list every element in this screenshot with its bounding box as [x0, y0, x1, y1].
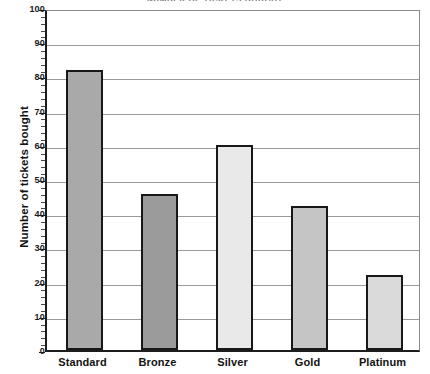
bar-gold — [291, 206, 328, 350]
y-axis-tick-label: 90 — [9, 38, 45, 48]
gridline — [47, 45, 419, 46]
plot-area — [45, 10, 420, 352]
bar-platinum — [366, 275, 403, 350]
bar-standard — [66, 70, 103, 350]
y-axis-tick-label: 10 — [9, 312, 45, 322]
x-axis-label-platinum: Platinum — [338, 356, 428, 368]
y-axis-tick-label: 100 — [9, 4, 45, 14]
chart-title: NUMBER OF TICKETS BOUGHT — [0, 0, 430, 1]
y-axis-tick-label: 0 — [9, 346, 45, 356]
bar-bronze — [141, 194, 178, 350]
bar-silver — [216, 145, 253, 350]
y-axis-title: Number of tickets bought — [18, 67, 30, 287]
